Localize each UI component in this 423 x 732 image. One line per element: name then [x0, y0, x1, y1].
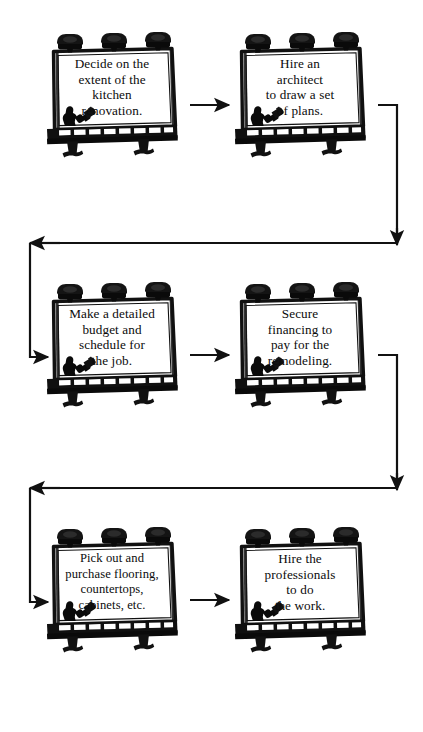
flowchart-canvas: Decide on the extent of the kitchen reno… [0, 0, 423, 732]
flowchart-artwork [0, 0, 423, 732]
sign-step-1 [47, 32, 178, 157]
sign-step-2 [235, 32, 366, 157]
sign-step-5 [47, 527, 178, 652]
sign-step-3 [47, 282, 178, 407]
sign-step-4 [235, 282, 366, 407]
sign-step-6 [235, 527, 366, 652]
